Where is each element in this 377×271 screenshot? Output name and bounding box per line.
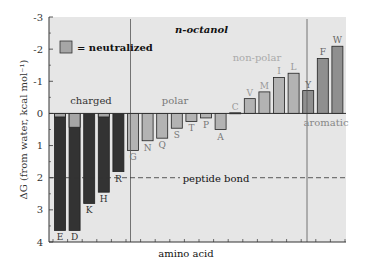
legend-swatch <box>60 41 72 53</box>
y-axis-label: ΔG (from water, kcal mol⁻¹) <box>18 59 29 199</box>
bar-A <box>215 113 226 129</box>
bar-label-Q: Q <box>159 140 166 150</box>
bar-G <box>128 113 139 150</box>
bar-M <box>259 92 270 114</box>
bar-label-Y: Y <box>304 80 312 90</box>
bar-H <box>98 113 109 192</box>
bar-label-M: M <box>260 81 269 91</box>
group-label-aromatic: aromatic <box>303 117 348 128</box>
bar-label-K: K <box>86 205 93 215</box>
neutralized-bar-E <box>55 113 66 117</box>
bar-R <box>113 113 124 171</box>
bar-Y <box>303 91 314 114</box>
bar-N <box>142 113 153 140</box>
bar-label-S: S <box>174 130 180 140</box>
bar-label-H: H <box>100 194 108 204</box>
bar-P <box>201 113 212 118</box>
bar-K <box>84 113 95 203</box>
bar-label-T: T <box>188 123 194 133</box>
bar-D <box>69 113 80 230</box>
bar-V <box>244 99 255 114</box>
group-label-charged: charged <box>70 95 112 106</box>
bar-label-P: P <box>203 120 209 130</box>
x-axis-label: amino acid <box>158 248 214 259</box>
y-tick-label: 4 <box>37 237 43 248</box>
bar-label-V: V <box>246 88 254 98</box>
legend-label: = neutralized <box>77 42 153 53</box>
bar-I <box>274 77 285 113</box>
y-tick-label: 2 <box>37 172 43 183</box>
bar-E <box>55 113 66 230</box>
group-label-polar: polar <box>162 95 189 106</box>
bar-W <box>332 46 343 113</box>
bar-F <box>317 58 328 113</box>
y-tick-label: 0 <box>37 108 43 119</box>
bar-label-C: C <box>232 102 239 112</box>
group-label-non-polar: non-polar <box>233 52 282 63</box>
bar-L <box>288 73 299 113</box>
bar-label-G: G <box>129 152 136 162</box>
bar-label-A: A <box>216 132 224 142</box>
neutralized-bar-H <box>98 113 109 117</box>
bar-label-F: F <box>320 47 326 57</box>
bar-label-W: W <box>333 35 343 45</box>
y-tick-label: -3 <box>33 12 43 23</box>
peptide-bond-label: peptide bond <box>183 173 250 184</box>
y-tick-label: 1 <box>37 140 43 151</box>
bar-label-I: I <box>277 66 281 76</box>
bar-label-D: D <box>71 232 78 242</box>
chart: EDKHRGNQSTPACVMILYFWpeptide bond-3-2-101… <box>0 0 377 271</box>
bar-label-E: E <box>57 232 64 242</box>
neutralized-bar-D <box>69 113 80 127</box>
bar-S <box>171 113 182 128</box>
y-tick-label: -2 <box>33 44 43 55</box>
bar-label-L: L <box>291 62 297 72</box>
bar-label-N: N <box>144 143 152 153</box>
bar-Q <box>157 113 168 138</box>
y-tick-label: -1 <box>33 76 43 87</box>
bar-label-R: R <box>115 174 122 184</box>
y-tick-label: 3 <box>37 204 43 215</box>
bar-T <box>186 113 197 121</box>
chart-title: n-octanol <box>175 24 228 35</box>
